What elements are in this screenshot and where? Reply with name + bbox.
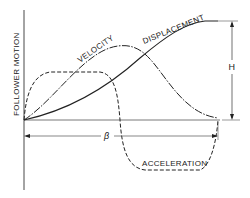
y-axis-label: FOLLOWER MOTION — [12, 32, 21, 116]
velocity-curve — [24, 46, 218, 120]
follower-motion-diagram: FOLLOWER MOTION VELOCITY DISPLACEMENT AC… — [0, 0, 250, 198]
rise-label: H — [229, 62, 236, 72]
cam-angle-label: β — [103, 131, 109, 141]
cam-angle-arrow-right — [212, 134, 218, 138]
displacement-label: DISPLACEMENT — [141, 13, 205, 46]
cam-angle-arrow-left — [24, 134, 30, 138]
rise-arrow-bottom — [230, 114, 234, 120]
acceleration-curve — [24, 72, 218, 170]
velocity-label: VELOCITY — [76, 33, 116, 65]
rise-arrow-top — [230, 21, 234, 27]
acceleration-label: ACCELERATION — [142, 159, 207, 168]
